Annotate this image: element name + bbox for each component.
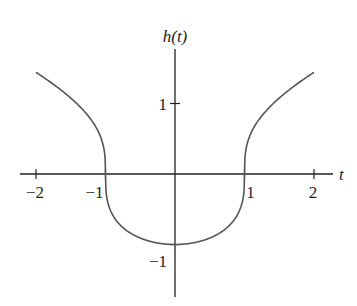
- y-axis-label: h(t): [163, 27, 188, 46]
- x-tick-label: 2: [309, 183, 318, 202]
- x-tick-label: −1: [85, 183, 103, 202]
- x-tick-label: 1: [246, 183, 255, 202]
- chart: −2−1121−1 t h(t): [0, 0, 357, 306]
- y-tick-label: −1: [149, 252, 167, 271]
- y-tick-label: 1: [159, 95, 168, 114]
- x-tick-label: −2: [26, 183, 44, 202]
- x-axis-label: t: [339, 165, 345, 184]
